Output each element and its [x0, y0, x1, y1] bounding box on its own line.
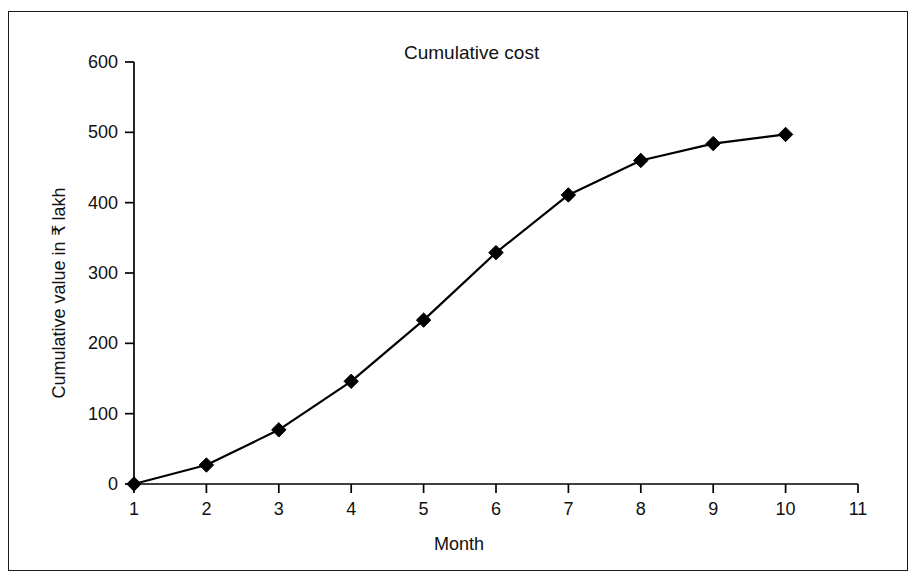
data-line: [134, 134, 786, 484]
x-tick-label: 11: [838, 500, 878, 518]
x-tick-label: 3: [259, 500, 299, 518]
x-tick-label: 10: [766, 500, 806, 518]
y-tick-label: 0: [58, 475, 118, 493]
data-point-marker: [778, 127, 792, 141]
data-point-marker: [199, 458, 213, 472]
x-tick-label: 1: [114, 500, 154, 518]
x-tick-label: 2: [186, 500, 226, 518]
x-tick-label: 9: [693, 500, 733, 518]
data-point-marker: [272, 423, 286, 437]
data-markers: [127, 127, 793, 491]
x-tick-label: 4: [331, 500, 371, 518]
tick-marks: [125, 62, 858, 493]
x-tick-label: 6: [476, 500, 516, 518]
y-tick-label: 100: [58, 405, 118, 423]
data-point-marker: [127, 477, 141, 491]
axis-lines: [134, 62, 858, 484]
x-tick-label: 8: [621, 500, 661, 518]
figure-frame: Cumulative cost Month Cumulative value i…: [8, 11, 908, 571]
y-tick-label: 300: [58, 264, 118, 282]
y-tick-label: 400: [58, 194, 118, 212]
x-tick-label: 7: [548, 500, 588, 518]
data-point-marker: [706, 136, 720, 150]
data-point-marker: [634, 153, 648, 167]
chart-plot-area: [9, 12, 909, 572]
y-tick-label: 200: [58, 334, 118, 352]
y-tick-label: 500: [58, 123, 118, 141]
x-tick-label: 5: [404, 500, 444, 518]
y-tick-label: 600: [58, 53, 118, 71]
